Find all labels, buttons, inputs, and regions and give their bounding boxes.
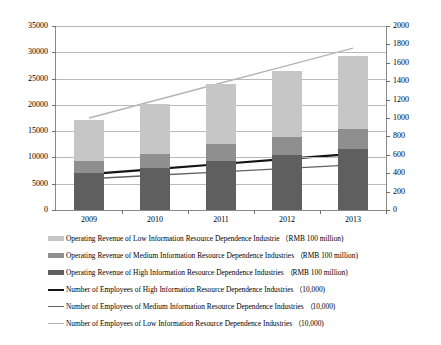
x-axis-label: 2013 <box>333 216 373 224</box>
legend-item-low-revenue: Operating Revenue of Low Information Res… <box>0 230 441 247</box>
x-axis-label: 2012 <box>267 216 307 224</box>
legend-item-low-employees: Number of Employees of Low Information R… <box>0 315 441 332</box>
chart-container: 05000100001500020000250003000035000 0200… <box>0 0 441 345</box>
left-axis-label: 30000 <box>6 48 48 56</box>
left-axis-label: 0 <box>6 206 48 214</box>
bar-segment-high[interactable] <box>74 173 104 210</box>
x-axis-tick <box>254 210 255 214</box>
x-axis-tick <box>122 210 123 214</box>
gridline <box>56 210 386 211</box>
bar-segment-low[interactable] <box>272 71 302 137</box>
right-axis-label: 1800 <box>393 40 433 48</box>
right-axis-tick <box>386 81 390 82</box>
legend-item-medium-employees: Number of Employees of Medium Informatio… <box>0 298 441 315</box>
legend-item-medium-revenue: Operating Revenue of Medium Information … <box>0 247 441 264</box>
right-axis-label: 0 <box>393 206 433 214</box>
legend-line-medium-employees-icon <box>48 306 64 307</box>
right-axis-label: 2000 <box>393 22 433 30</box>
right-axis-tick <box>386 173 390 174</box>
left-axis-tick <box>52 157 56 158</box>
bar-segment-low[interactable] <box>74 120 104 162</box>
legend-label-medium-revenue: Operating Revenue of Medium Information … <box>66 251 358 260</box>
left-axis-tick <box>52 105 56 106</box>
legend-label-low-revenue: Operating Revenue of Low Information Res… <box>66 234 344 243</box>
bar-segment-low[interactable] <box>338 56 368 129</box>
plot-canvas <box>56 26 386 210</box>
right-axis-label: 400 <box>393 169 433 177</box>
bar-segment-high[interactable] <box>272 155 302 210</box>
right-axis-tick <box>386 118 390 119</box>
bar-segment-medium[interactable] <box>206 144 236 161</box>
right-axis-label: 600 <box>393 151 433 159</box>
bar-column[interactable] <box>74 26 104 210</box>
bar-column[interactable] <box>272 26 302 210</box>
x-axis-tick <box>386 210 387 214</box>
left-axis-tick <box>52 79 56 80</box>
legend-label-medium-employees: Number of Employees of Medium Informatio… <box>66 302 335 311</box>
right-axis-label: 1400 <box>393 77 433 85</box>
legend-label-low-employees: Number of Employees of Low Information R… <box>66 319 324 328</box>
right-axis-label: 1200 <box>393 96 433 104</box>
right-axis-label: 800 <box>393 132 433 140</box>
bar-column[interactable] <box>338 26 368 210</box>
bar-segment-high[interactable] <box>338 149 368 210</box>
legend-swatch-low-revenue-icon <box>48 236 64 241</box>
x-axis-tick <box>188 210 189 214</box>
left-axis-tick <box>52 52 56 53</box>
bar-segment-low[interactable] <box>140 104 170 153</box>
legend-swatch-medium-revenue-icon <box>48 253 64 258</box>
right-axis-tick <box>386 155 390 156</box>
bar-column[interactable] <box>206 26 236 210</box>
bar-segment-medium[interactable] <box>140 154 170 168</box>
right-axis-tick <box>386 63 390 64</box>
x-axis-tick <box>320 210 321 214</box>
bar-column[interactable] <box>140 26 170 210</box>
right-axis-tick <box>386 100 390 101</box>
plot-area: 05000100001500020000250003000035000 0200… <box>0 0 441 225</box>
x-axis-label: 2010 <box>135 216 175 224</box>
bar-segment-high[interactable] <box>206 161 236 210</box>
x-axis-label: 2009 <box>69 216 109 224</box>
left-axis-tick <box>52 26 56 27</box>
x-axis-label: 2011 <box>201 216 241 224</box>
right-axis-label: 200 <box>393 188 433 196</box>
right-axis-tick <box>386 136 390 137</box>
legend-swatch-high-revenue-icon <box>48 270 64 275</box>
left-axis-label: 15000 <box>6 127 48 135</box>
legend-line-low-employees-icon <box>48 323 64 324</box>
left-axis-label: 10000 <box>6 153 48 161</box>
right-axis-tick <box>386 44 390 45</box>
right-axis-tick <box>386 192 390 193</box>
legend-label-high-employees: Number of Employees of High Information … <box>66 285 325 294</box>
left-axis-tick <box>52 131 56 132</box>
left-axis-tick <box>52 210 56 211</box>
left-axis-label: 35000 <box>6 22 48 30</box>
left-axis-label: 20000 <box>6 101 48 109</box>
left-axis-tick <box>52 184 56 185</box>
bar-segment-low[interactable] <box>206 84 236 144</box>
right-axis-label: 1000 <box>393 114 433 122</box>
bar-segment-medium[interactable] <box>272 137 302 155</box>
bar-segment-medium[interactable] <box>74 161 104 173</box>
right-axis-tick <box>386 26 390 27</box>
right-axis-label: 1600 <box>393 59 433 67</box>
left-axis-label: 5000 <box>6 180 48 188</box>
left-axis-label: 25000 <box>6 75 48 83</box>
legend-item-high-revenue: Operating Revenue of High Information Re… <box>0 264 441 281</box>
bar-segment-high[interactable] <box>140 168 170 210</box>
legend-label-high-revenue: Operating Revenue of High Information Re… <box>66 268 348 277</box>
bar-segment-medium[interactable] <box>338 129 368 150</box>
legend-line-high-employees-icon <box>48 289 64 291</box>
chart-legend: Operating Revenue of Low Information Res… <box>0 230 441 332</box>
legend-item-high-employees: Number of Employees of High Information … <box>0 281 441 298</box>
